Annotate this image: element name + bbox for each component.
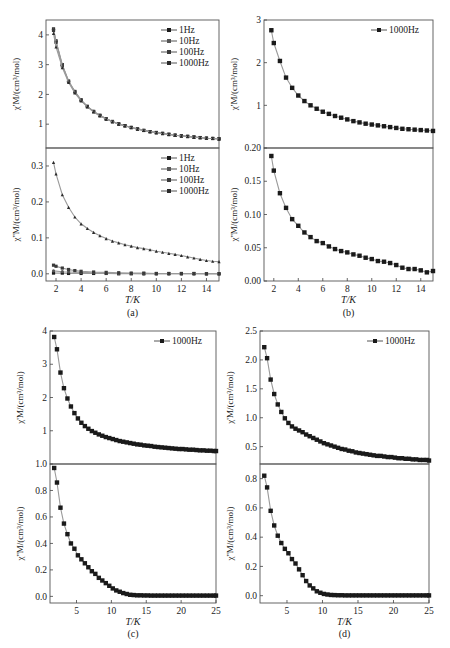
x-tick-label: 5 [285, 606, 290, 616]
x-tick-label: 15 [353, 606, 363, 616]
data-point [427, 593, 431, 597]
data-point [272, 41, 276, 45]
data-point [205, 272, 208, 275]
x-tick-label: 4 [296, 284, 301, 294]
plot-frame [260, 464, 429, 603]
y-tick-label: 0.2 [245, 562, 257, 572]
x-tick-label: 10 [318, 606, 328, 616]
data-point [272, 168, 276, 172]
data-point [92, 270, 95, 273]
x-axis-label: T/K [341, 294, 357, 305]
data-point [321, 241, 325, 245]
legend: 1Hz10Hz100Hz1000Hz [161, 153, 209, 196]
panel-c: 1234χ'M/(cm³/mol)1000Hz0.00.20.40.60.81.… [15, 326, 221, 640]
legend-label: 100Hz [179, 47, 204, 57]
data-point [406, 267, 410, 271]
y-tick-label: 2 [38, 90, 43, 100]
data-point [308, 103, 312, 107]
y-tick-label: 1 [42, 426, 47, 436]
data-point [370, 257, 374, 261]
legend-marker [373, 339, 377, 343]
data-point [327, 112, 331, 116]
data-point [52, 161, 55, 164]
y-tick-label: 0.0 [31, 269, 43, 279]
x-tick-label: 6 [320, 284, 325, 294]
data-point [58, 370, 62, 374]
legend-marker [377, 28, 381, 32]
subplot-in-phase: 1234χ'M/(cm³/mol)1Hz10Hz100Hz1000Hz [11, 20, 221, 148]
x-tick-label: 25 [211, 606, 221, 616]
subplot-in-phase: 0.51.01.52.02.5χ'M/(cm³/mol)1000Hz [225, 326, 431, 464]
y-tick-label: 0.2 [31, 197, 43, 207]
legend-label: 100Hz [179, 175, 204, 185]
legend-marker [167, 61, 171, 65]
data-point [276, 402, 280, 406]
legend: 1000Hz [371, 25, 419, 35]
legend-marker [167, 167, 171, 171]
data-point [268, 377, 272, 381]
data-point [130, 271, 133, 274]
y-tick-label: 0.6 [35, 512, 47, 522]
data-point [93, 572, 97, 576]
data-point [400, 266, 404, 270]
data-point [376, 123, 380, 127]
legend-marker [167, 156, 171, 160]
legend: 1000Hz [367, 336, 415, 346]
data-point [431, 269, 435, 273]
subplot-out-of-phase: 0.000.050.100.150.20χ''M/(cm³/mol) [229, 143, 435, 286]
data-point [419, 128, 423, 132]
y-tick-label: 2.5 [245, 326, 257, 336]
y-tick-label: 0.4 [35, 539, 47, 549]
legend-label: 1000Hz [385, 336, 415, 346]
data-point [382, 260, 386, 264]
panel-b: 123χ'M/(cm³/mol)1000Hz0.000.050.100.150.… [229, 15, 435, 319]
x-tick-label: 5 [74, 606, 79, 616]
data-point [69, 404, 73, 408]
data-point [117, 271, 120, 274]
x-tick-label: 15 [142, 606, 152, 616]
data-point [296, 93, 300, 97]
x-axis-label: T/K [337, 616, 353, 627]
series-line-1000Hz [264, 476, 429, 596]
legend: 1000Hz [154, 336, 202, 346]
data-point [55, 347, 59, 351]
data-point [61, 270, 64, 273]
data-point [55, 480, 59, 484]
panel-caption: (b) [343, 307, 355, 319]
data-point [394, 263, 398, 267]
data-point [69, 541, 73, 545]
x-axis-label: T/K [125, 294, 141, 305]
y-tick-label: 1.5 [245, 384, 257, 394]
y-tick-label: 1.0 [245, 413, 257, 423]
data-point [327, 244, 331, 248]
data-point [412, 127, 416, 131]
panel-caption: (a) [127, 307, 138, 319]
data-point [62, 521, 66, 525]
y-tick-label: 0.8 [245, 474, 257, 484]
y-axis-label: χ'M/(cm³/mol) [11, 58, 21, 111]
legend-marker [160, 339, 164, 343]
y-axis-label: χ'M/(cm³/mol) [229, 58, 239, 111]
data-point [272, 523, 276, 527]
data-point [54, 172, 57, 175]
data-point [412, 267, 416, 271]
data-point [72, 411, 76, 415]
data-point [142, 271, 145, 274]
data-point [302, 99, 306, 103]
x-tick-label: 10 [107, 606, 117, 616]
data-point [376, 259, 380, 263]
x-tick-label: 2 [54, 284, 59, 294]
data-point [167, 272, 170, 275]
data-point [283, 416, 287, 420]
y-tick-label: 4 [38, 30, 43, 40]
data-point [394, 126, 398, 130]
data-point [268, 509, 272, 513]
data-point [290, 217, 294, 221]
y-tick-label: 0.0 [35, 592, 47, 602]
data-point [155, 272, 158, 275]
x-tick-label: 8 [345, 284, 350, 294]
legend-label: 1Hz [179, 25, 195, 35]
x-tick-label: 10 [367, 284, 377, 294]
data-point [58, 505, 62, 509]
data-point [296, 224, 300, 228]
